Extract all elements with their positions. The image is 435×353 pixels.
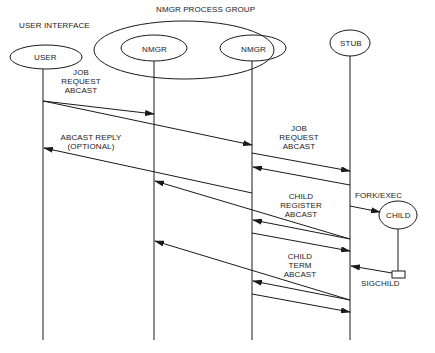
svg-text:JOB: JOB (291, 124, 307, 133)
svg-text:REQUEST: REQUEST (61, 77, 100, 86)
svg-text:(OPTIONAL): (OPTIONAL) (68, 142, 115, 151)
process-group-label: NMGR PROCESS GROUP (156, 5, 255, 14)
participant-stub: STUB (330, 30, 370, 56)
arrow-child-to-stub-sigchild (351, 266, 392, 273)
arrow-user-to-nmgr1-job-request (43, 101, 154, 114)
svg-text:TERM: TERM (288, 261, 311, 270)
svg-text:JOB: JOB (73, 68, 89, 77)
arrow-nmgr2-to-user-abcast-reply (44, 148, 252, 193)
label-sigchild: SIGCHILD (361, 279, 400, 288)
sigchild-box (392, 271, 405, 278)
svg-text:CHILD: CHILD (288, 252, 313, 261)
svg-text:ABCAST: ABCAST (285, 210, 318, 219)
arrow-nmgr2-to-stub-job-request (252, 153, 350, 171)
label-job-request-1: JOB REQUEST ABCAST (61, 68, 100, 95)
participant-nmgr-1: NMGR (121, 35, 187, 61)
svg-text:REQUEST: REQUEST (279, 133, 318, 142)
label-fork-exec: FORK/EXEC (355, 191, 402, 200)
participant-child-label: CHILD (386, 211, 411, 220)
svg-text:ABCAST: ABCAST (283, 142, 316, 151)
svg-text:ABCAST REPLY: ABCAST REPLY (61, 133, 122, 142)
participant-nmgr-2: NMGR (220, 35, 286, 61)
svg-text:CHILD: CHILD (289, 192, 314, 201)
svg-text:ABCAST: ABCAST (284, 270, 317, 279)
label-child-register: CHILD REGISTER ABCAST (280, 192, 322, 219)
arrow-stub-to-nmgr2-job-request (253, 167, 350, 185)
participant-user: USER (10, 45, 82, 69)
user-interface-label: USER INTERFACE (19, 21, 90, 30)
participant-nmgr-2-label: NMGR (241, 45, 266, 54)
sequence-diagram: USER INTERFACE NMGR PROCESS GROUP USER N… (0, 0, 435, 353)
svg-text:REGISTER: REGISTER (280, 201, 322, 210)
arrow-stub-to-child-fork-exec (350, 206, 380, 212)
svg-text:ABCAST: ABCAST (65, 86, 98, 95)
label-abcast-reply: ABCAST REPLY (OPTIONAL) (61, 133, 122, 151)
participant-nmgr-1-label: NMGR (142, 45, 167, 54)
participant-user-label: USER (34, 53, 57, 62)
label-child-term: CHILD TERM ABCAST (284, 252, 317, 279)
label-job-request-2: JOB REQUEST ABCAST (279, 124, 318, 151)
participant-child: CHILD (379, 201, 417, 229)
participant-stub-label: STUB (340, 39, 362, 48)
